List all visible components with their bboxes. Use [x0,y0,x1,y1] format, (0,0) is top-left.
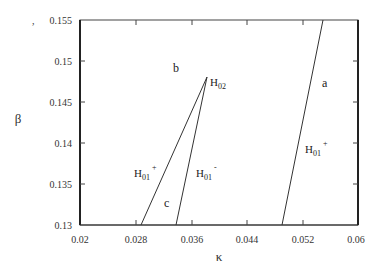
xtick-0.052: 0.052 [292,234,315,245]
ytick-0.15: 0.15 [55,56,73,67]
region-c-label: c [164,196,169,210]
curve-h01-plus-right [282,20,323,225]
h01-minus-label: H01- [196,163,217,182]
stray-mark: , [32,15,35,26]
h01-plus-right-label: H01+ [305,139,328,158]
xtick-0.06: 0.06 [347,234,365,245]
x-ticks [136,20,303,225]
ytick-0.135: 0.135 [50,179,73,190]
xtick-0.044: 0.044 [236,234,259,245]
xtick-0.036: 0.036 [181,234,204,245]
curve-h01-plus-left [141,77,207,225]
ytick-0.13: 0.13 [55,220,73,231]
h02-label: H02 [210,76,226,91]
xtick-0.028: 0.028 [125,234,148,245]
h01-plus-left-label: H01+ [134,163,157,182]
curve-h01-minus [176,77,207,225]
bifurcation-chart: 0.13 0.135 0.14 0.145 0.15 0.155 , 0.02 … [0,0,385,277]
x-axis-label: κ [216,249,223,264]
y-axis-label: β [15,111,22,126]
ytick-0.155: 0.155 [50,15,73,26]
region-a-label: a [322,76,328,90]
region-b-label: b [173,61,179,75]
y-ticks [80,61,358,184]
plot-frame [80,20,358,225]
ytick-0.145: 0.145 [50,97,73,108]
ytick-0.14: 0.14 [55,138,73,149]
xtick-0.02: 0.02 [71,234,89,245]
